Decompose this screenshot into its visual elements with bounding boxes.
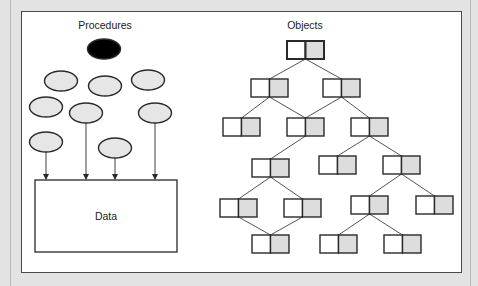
- object-node: [351, 196, 388, 214]
- procedure-ellipse: [70, 103, 103, 123]
- procedure-ellipse: [30, 132, 63, 152]
- procedure-ellipse: [132, 70, 165, 90]
- object-method-cell: [270, 79, 289, 97]
- procedure-ellipse: [45, 71, 78, 91]
- object-node: [284, 199, 321, 217]
- object-node: [252, 235, 289, 253]
- object-node: [384, 235, 421, 253]
- object-data-cell: [351, 118, 370, 136]
- procedure-ellipse: [99, 138, 132, 158]
- object-method-cell: [402, 156, 421, 174]
- object-link: [239, 217, 271, 235]
- object-link: [271, 136, 306, 159]
- object-data-cell: [284, 199, 303, 217]
- procedures-section: Procedures Data: [30, 19, 178, 252]
- object-method-cell: [271, 235, 290, 253]
- procedure-ellipses: [30, 39, 172, 158]
- procedures-vs-objects-diagram: Procedures Data Objects: [0, 0, 478, 286]
- object-method-cell: [338, 156, 357, 174]
- object-data-cell: [319, 156, 338, 174]
- object-method-cell: [403, 235, 422, 253]
- object-node: [252, 159, 289, 177]
- object-data-cell: [223, 118, 242, 136]
- object-data-cell: [287, 118, 306, 136]
- object-link: [370, 174, 402, 196]
- object-data-cell: [251, 79, 270, 97]
- object-link: [270, 59, 306, 79]
- object-method-cell: [306, 41, 325, 59]
- objects-title: Objects: [287, 19, 323, 31]
- object-data-cell: [287, 41, 306, 59]
- object-link: [306, 97, 342, 118]
- procedure-ellipse: [89, 76, 122, 96]
- object-link: [370, 214, 403, 235]
- object-node: [319, 156, 356, 174]
- object-link: [342, 97, 370, 118]
- object-node: [287, 41, 324, 59]
- object-method-cell: [435, 196, 454, 214]
- object-link: [339, 214, 370, 235]
- object-node: [251, 79, 288, 97]
- object-node: [383, 156, 420, 174]
- procedure-ellipse: [139, 103, 172, 123]
- object-link: [270, 97, 306, 118]
- active-procedure-ellipse: [88, 39, 121, 59]
- data-box: Data: [35, 180, 177, 252]
- object-method-cell: [271, 159, 290, 177]
- object-link: [306, 59, 342, 79]
- procedures-title: Procedures: [78, 19, 132, 31]
- object-method-cell: [342, 79, 361, 97]
- object-link: [242, 97, 270, 118]
- object-node: [223, 118, 260, 136]
- object-method-cell: [242, 118, 261, 136]
- object-link: [370, 136, 402, 156]
- object-method-cell: [303, 199, 322, 217]
- object-method-cell: [370, 196, 389, 214]
- procedure-ellipse: [30, 97, 63, 117]
- object-link: [271, 177, 303, 199]
- object-link: [402, 174, 435, 196]
- object-data-cell: [320, 235, 339, 253]
- object-nodes: [220, 41, 453, 253]
- object-link: [239, 177, 271, 199]
- object-data-cell: [252, 159, 271, 177]
- object-link: [271, 217, 303, 235]
- objects-section: Objects: [220, 19, 453, 253]
- object-method-cell: [370, 118, 389, 136]
- object-node: [416, 196, 453, 214]
- object-node: [320, 235, 357, 253]
- object-link: [338, 136, 370, 156]
- object-data-cell: [416, 196, 435, 214]
- object-data-cell: [220, 199, 239, 217]
- object-data-cell: [383, 156, 402, 174]
- object-node: [351, 118, 388, 136]
- object-data-cell: [252, 235, 271, 253]
- object-data-cell: [351, 196, 370, 214]
- object-method-cell: [339, 235, 358, 253]
- object-node: [287, 118, 324, 136]
- object-data-cell: [323, 79, 342, 97]
- object-method-cell: [306, 118, 325, 136]
- object-node: [220, 199, 257, 217]
- object-node: [323, 79, 360, 97]
- object-data-cell: [384, 235, 403, 253]
- object-method-cell: [239, 199, 258, 217]
- data-box-label: Data: [95, 210, 117, 222]
